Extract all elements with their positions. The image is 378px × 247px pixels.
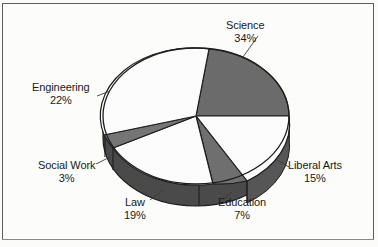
callout-law-label: Law	[124, 196, 146, 209]
callout-liberal-arts: Liberal Arts 15%	[288, 159, 342, 184]
callout-education-label: Education	[218, 196, 266, 209]
callout-liberal-arts-percent: 15%	[288, 172, 342, 185]
callout-social-work-label: Social Work	[38, 159, 95, 172]
callout-science-percent: 34%	[226, 32, 264, 45]
callout-engineering-percent: 22%	[32, 94, 90, 107]
pie-chart-graphic	[0, 0, 378, 247]
pie-slice-science[interactable]	[196, 49, 289, 116]
callout-law: Law 19%	[124, 196, 146, 221]
callout-education-percent: 7%	[218, 209, 266, 222]
callout-engineering-label: Engineering	[32, 81, 90, 94]
figure-root: Science 34% Liberal Arts 15% Education 7…	[0, 0, 378, 247]
callout-law-percent: 19%	[124, 209, 146, 222]
callout-science-label: Science	[226, 19, 264, 32]
callout-education: Education 7%	[218, 196, 266, 221]
pie-top-face	[100, 48, 289, 185]
callout-science: Science 34%	[226, 19, 264, 44]
callout-social-work-percent: 3%	[38, 172, 95, 185]
callout-engineering: Engineering 22%	[32, 81, 90, 106]
callout-social-work: Social Work 3%	[38, 159, 95, 184]
callout-liberal-arts-label: Liberal Arts	[288, 159, 342, 172]
